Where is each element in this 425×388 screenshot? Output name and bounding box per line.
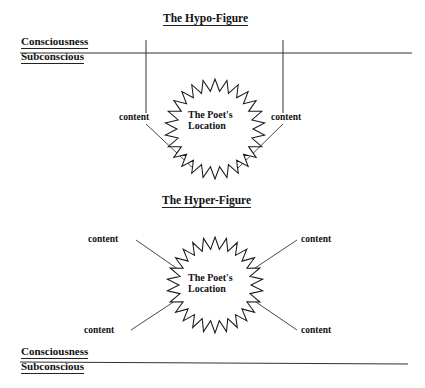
top-subconscious-label: Subconscious xyxy=(21,51,84,64)
hyper-connector-top-left xyxy=(136,240,182,272)
hypo-poet-location-line1: The Poet's xyxy=(188,109,233,120)
hyper-content-label-bottom-right: content xyxy=(301,326,331,336)
hypo-poet-location-label: The Poet's Location xyxy=(188,110,233,131)
hyper-figure-title: The Hyper-Figure xyxy=(162,194,251,208)
hyper-connector-bottom-right xyxy=(250,298,297,330)
hyper-connector-top-right xyxy=(249,240,297,272)
hypo-figure-title: The Hypo-Figure xyxy=(163,12,248,26)
hyper-content-label-bottom-left: content xyxy=(84,326,114,336)
hypo-content-label-left: content xyxy=(119,113,149,123)
hyper-poet-location-line1: The Poet's xyxy=(188,272,233,283)
hyper-poet-location-label: The Poet's Location xyxy=(188,273,233,294)
hyper-poet-location-line2: Location xyxy=(188,284,233,295)
hyper-content-label-top-left: content xyxy=(88,235,118,245)
hypo-poet-location-line2: Location xyxy=(188,121,233,132)
bottom-subconscious-label: Subconscious xyxy=(21,361,84,374)
bottom-consciousness-label: Consciousness xyxy=(21,346,88,359)
top-consciousness-label: Consciousness xyxy=(21,36,88,49)
diagram-canvas: The Hypo-Figure Consciousness Subconscio… xyxy=(0,0,425,388)
hypo-content-label-right: content xyxy=(271,113,301,123)
hyper-content-label-top-right: content xyxy=(301,235,331,245)
